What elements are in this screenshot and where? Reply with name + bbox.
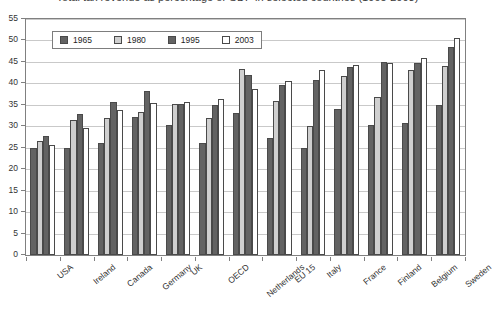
y-axis-tick-label: 5 <box>13 228 18 238</box>
x-axis-tick-mark <box>60 257 61 261</box>
bar-series-layer <box>26 19 465 255</box>
x-axis-tick-label: UK <box>189 262 204 277</box>
y-axis-tick-label: 35 <box>9 99 18 109</box>
y-axis-tick-label: 45 <box>9 56 18 66</box>
y-axis-tick-label: 15 <box>9 185 18 195</box>
bar <box>252 89 258 255</box>
y-axis: 0510152025303540455055 <box>0 18 22 256</box>
bar <box>387 63 393 255</box>
x-axis-tick-mark <box>397 257 398 261</box>
bar <box>421 58 427 255</box>
legend-swatch-icon <box>168 36 176 44</box>
x-axis-tick-mark <box>296 257 297 261</box>
bar-group <box>132 19 157 255</box>
legend-label: 1995 <box>181 35 200 45</box>
y-axis-tick-label: 50 <box>9 34 18 44</box>
legend-item: 1995 <box>168 35 200 45</box>
x-axis-tick-mark <box>364 257 365 261</box>
bar <box>353 65 359 255</box>
x-axis-tick-mark <box>127 257 128 261</box>
y-axis-tick-label: 10 <box>9 206 18 216</box>
y-axis-tick-label: 40 <box>9 77 18 87</box>
bar <box>150 103 156 255</box>
bar <box>117 110 123 255</box>
bar <box>319 70 325 255</box>
x-axis-tick-label: Ireland <box>91 262 117 286</box>
y-axis-tick-label: 55 <box>9 13 18 23</box>
x-axis-tick-label: Germany <box>160 262 193 292</box>
x-axis-tick-label: Sweden <box>463 262 493 289</box>
bar-group <box>301 19 326 255</box>
bar-group <box>267 19 292 255</box>
x-axis-tick-mark <box>26 257 27 261</box>
x-axis-tick-label: Finland <box>395 262 423 288</box>
chart-legend: 1965198019952003 <box>52 31 262 49</box>
x-axis-tick-mark <box>431 257 432 261</box>
legend-item: 2003 <box>222 35 254 45</box>
x-axis: USAIrelandCanadaGermanyUKOECDNetherlands… <box>26 257 465 317</box>
bar-group <box>199 19 224 255</box>
bar <box>49 145 55 255</box>
y-axis-tick-label: 0 <box>13 249 18 259</box>
bar <box>218 99 224 255</box>
x-axis-tick-mark <box>465 257 466 261</box>
bar <box>83 128 89 255</box>
legend-label: 1965 <box>73 35 92 45</box>
chart-title: Total tax revenue as percentage of GDP i… <box>0 0 475 3</box>
bar-group <box>98 19 123 255</box>
bar-group <box>402 19 427 255</box>
legend-item: 1980 <box>114 35 146 45</box>
x-axis-tick-mark <box>94 257 95 261</box>
bar-group <box>334 19 359 255</box>
legend-swatch-icon <box>60 36 68 44</box>
legend-swatch-icon <box>222 36 230 44</box>
x-axis-tick-label: Belgium <box>430 262 460 289</box>
y-axis-tick-label: 25 <box>9 142 18 152</box>
x-axis-tick-label: Italy <box>325 262 343 280</box>
x-axis-tick-mark <box>161 257 162 261</box>
x-axis-tick-label: Canada <box>125 262 154 289</box>
bar <box>285 81 291 255</box>
bar-group <box>166 19 191 255</box>
bar <box>454 38 460 255</box>
bar <box>184 102 190 255</box>
legend-swatch-icon <box>114 36 122 44</box>
legend-label: 1980 <box>127 35 146 45</box>
x-axis-tick-mark <box>229 257 230 261</box>
x-axis-tick-label: OECD <box>225 262 250 285</box>
legend-item: 1965 <box>60 35 92 45</box>
y-axis-tick-label: 30 <box>9 120 18 130</box>
x-axis-tick-mark <box>330 257 331 261</box>
bar-group <box>30 19 55 255</box>
bar-group <box>368 19 393 255</box>
bar-group <box>233 19 258 255</box>
x-axis-tick-mark <box>262 257 263 261</box>
y-axis-tick-label: 20 <box>9 163 18 173</box>
legend-label: 2003 <box>235 35 254 45</box>
x-axis-tick-mark <box>195 257 196 261</box>
bar-group <box>436 19 461 255</box>
bar-group <box>64 19 89 255</box>
x-axis-tick-label: USA <box>55 262 75 281</box>
x-axis-tick-label: France <box>361 262 388 287</box>
